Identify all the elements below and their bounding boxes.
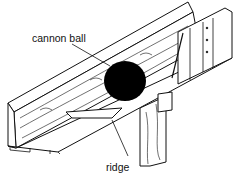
cannon-ball: [104, 61, 146, 101]
ridge-label: ridge: [106, 162, 129, 173]
ridge-leader: [112, 120, 128, 156]
trough-drawing: [0, 0, 241, 179]
cannon-ball-label: cannon ball: [32, 33, 86, 44]
